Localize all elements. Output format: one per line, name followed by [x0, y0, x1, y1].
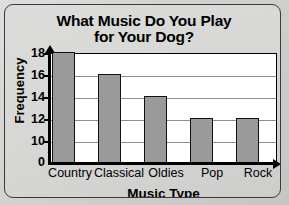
bar-rock[interactable] — [236, 118, 259, 162]
bar-classical[interactable] — [98, 74, 121, 162]
chart-frame: What Music Do You Play for Your Dog? Fre… — [4, 4, 281, 198]
bar-oldies[interactable] — [144, 96, 167, 162]
plot-area — [50, 53, 277, 163]
y-tick-label-14: 14 — [25, 91, 45, 103]
bar-pop[interactable] — [190, 118, 213, 162]
chart-title: What Music Do You Play for Your Dog? — [19, 13, 269, 45]
chart-title-line-2: for Your Dog? — [19, 29, 269, 45]
chart-title-line-1: What Music Do You Play — [56, 12, 231, 29]
x-tick-label-rock: Rock — [221, 166, 281, 180]
gridline-16 — [51, 76, 276, 77]
y-tick-label-12: 12 — [25, 113, 45, 125]
figure-container: What Music Do You Play for Your Dog? Fre… — [0, 0, 289, 205]
y-tick-label-16: 16 — [25, 69, 45, 81]
bar-country[interactable] — [52, 52, 75, 162]
y-axis-line — [48, 51, 50, 165]
y-axis-arrow-icon — [45, 45, 55, 53]
y-tick-label-10: 10 — [25, 135, 45, 147]
y-tick-label-18: 18 — [25, 47, 45, 59]
x-axis-title: Music Type — [50, 186, 277, 198]
x-axis-line — [48, 163, 275, 165]
